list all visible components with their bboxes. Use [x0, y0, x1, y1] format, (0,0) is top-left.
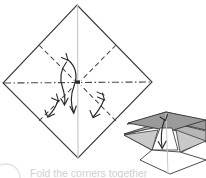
folded-result-3d — [124, 112, 206, 174]
origami-diagram-canvas: Fold the corners together — [0, 0, 206, 178]
origami-diagram-svg — [0, 0, 206, 178]
center-point-marker — [76, 80, 80, 83]
step-bullet-circle — [0, 164, 20, 178]
figure-caption: Fold the corners together — [30, 167, 206, 178]
